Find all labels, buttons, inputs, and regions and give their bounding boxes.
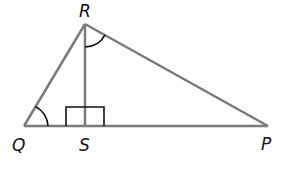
label-p: P bbox=[261, 134, 272, 154]
side-qr bbox=[24, 24, 85, 126]
triangle-diagram: R Q S P bbox=[0, 0, 292, 172]
side-rp bbox=[85, 24, 268, 126]
label-q: Q bbox=[12, 135, 25, 155]
label-s: S bbox=[79, 135, 90, 155]
right-angle-mark-right bbox=[85, 107, 104, 126]
angle-arc-r bbox=[85, 35, 105, 47]
angle-arc-q bbox=[36, 107, 49, 127]
label-r: R bbox=[79, 1, 91, 21]
right-angle-mark-left bbox=[66, 107, 85, 126]
